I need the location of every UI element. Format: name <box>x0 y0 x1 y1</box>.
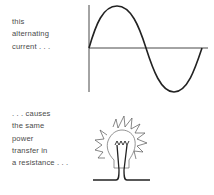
bulb-glass <box>107 130 135 168</box>
diagram-canvas <box>0 0 214 195</box>
sine-wave-graph <box>89 5 208 92</box>
light-bulb-icon <box>93 116 150 180</box>
sine-wave-curve <box>89 6 202 92</box>
